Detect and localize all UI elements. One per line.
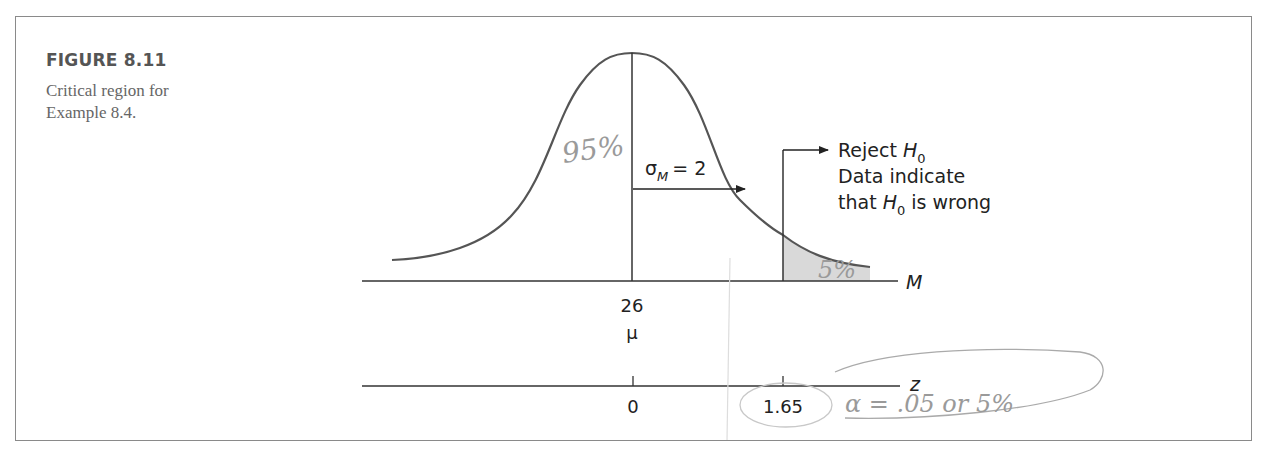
z-tick-label-crit: 1.65 [763,396,803,417]
normal-curve [392,53,870,267]
reject-h0-label: Reject H0 [838,139,926,166]
m-tick-26: 26 [621,295,644,316]
handwritten-alpha-note: α = .05 or 5% [845,390,1014,418]
h0-wrong-label: that H0 is wrong [838,191,991,218]
normal-distribution-diagram: M σM= 2 Reject H0 Data indicate that H0 … [0,0,1267,459]
data-indicate-label: Data indicate [838,165,965,187]
handwritten-5-percent: 5% [818,256,856,284]
handwritten-95-percent: 95% [560,129,626,170]
m-axis-label: M [906,271,922,293]
handwritten-pencil-line [727,258,730,440]
mu-label: μ [626,322,638,343]
z-tick-label-0: 0 [627,396,638,417]
sigma-label: σM= 2 [645,157,706,184]
